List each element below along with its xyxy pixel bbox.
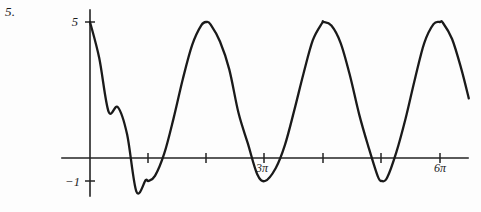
x-mid-label: 3π <box>255 161 269 175</box>
figure-root: 5. 5 −1 3π 6π <box>0 0 481 212</box>
graph-plot: 5 −1 3π 6π <box>0 0 481 212</box>
cosine-curve <box>90 21 469 193</box>
y-min-label: −1 <box>65 175 80 189</box>
x-end-label: 6π <box>434 161 447 175</box>
y-max-label: 5 <box>72 15 78 29</box>
